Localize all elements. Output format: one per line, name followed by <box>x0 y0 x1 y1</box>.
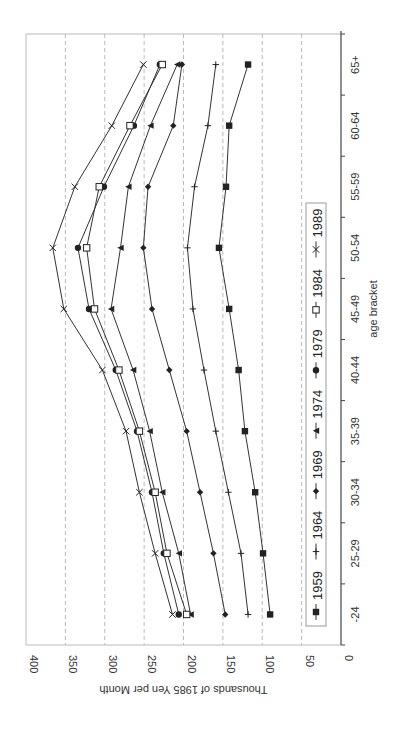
value-tick-label: 0 <box>343 655 355 661</box>
y-axis-label: Thousands of 1985 Yen per Month <box>99 684 267 696</box>
category-tick-label: 50-54 <box>349 234 361 262</box>
value-tick-label: 250 <box>146 655 158 673</box>
value-tick-label: 50 <box>304 655 316 667</box>
value-tick-label: 150 <box>225 655 237 673</box>
category-tick-label: -24 <box>349 606 361 622</box>
category-tick-label: 60-64 <box>349 112 361 140</box>
category-tick-label: 55-59 <box>349 173 361 201</box>
legend-item-1979: 1979 <box>310 329 325 358</box>
legend-item-1974: 1974 <box>310 390 325 419</box>
value-tick-label: 350 <box>67 655 79 673</box>
category-tick-label: 65+ <box>349 55 361 74</box>
value-tick-label: 300 <box>107 655 119 673</box>
legend-item-1984: 1984 <box>310 269 325 298</box>
category-tick-label: 30-34 <box>349 478 361 506</box>
series-1959 <box>216 61 274 617</box>
legend-item-1969: 1969 <box>310 450 325 479</box>
value-tick-label: 200 <box>186 655 198 673</box>
value-tick-label: 400 <box>28 655 40 673</box>
legend-item-1989: 1989 <box>310 209 325 238</box>
value-tick-label: 100 <box>264 655 276 673</box>
category-tick-label: 40-44 <box>349 356 361 384</box>
legend: 1959196419691974197919841989 <box>306 203 326 626</box>
series-1969 <box>140 61 228 617</box>
legend-item-1964: 1964 <box>310 511 325 540</box>
line-chart: 050100150200250300350400-2425-2930-3435-… <box>0 0 396 729</box>
series-1989 <box>50 61 176 617</box>
x-axis-label: age bracket <box>367 280 379 337</box>
series-1964 <box>184 61 251 617</box>
category-tick-label: 25-29 <box>349 539 361 567</box>
category-tick-label: 35-39 <box>349 417 361 445</box>
legend-item-1959: 1959 <box>310 571 325 600</box>
category-tick-label: 45-49 <box>349 295 361 323</box>
